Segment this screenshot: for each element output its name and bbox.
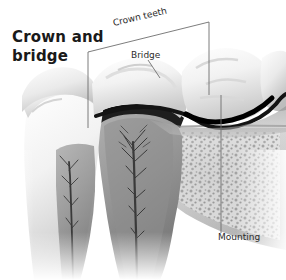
- label-bridge: Bridge: [131, 50, 160, 60]
- title-line-2: bridge: [12, 47, 104, 66]
- left-fade: [0, 150, 34, 280]
- title-line-1: Crown and: [12, 28, 104, 47]
- figure-title: Crown and bridge: [12, 28, 104, 66]
- illustration-figure: Crown and bridge Crown teeth Bridge Moun…: [0, 0, 286, 280]
- label-mounting: Mounting: [218, 232, 260, 242]
- right-fade: [236, 150, 286, 280]
- leader-crown-teeth-bracket: [88, 22, 209, 52]
